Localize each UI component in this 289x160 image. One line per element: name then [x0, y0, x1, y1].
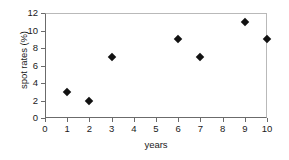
- y-tick: [41, 83, 45, 84]
- x-tick-label: 6: [168, 124, 188, 134]
- x-tick-label: 10: [257, 124, 277, 134]
- x-tick-label: 3: [102, 124, 122, 134]
- spot-rates-scatter-chart: spot rates (%) 012345678910 024681012 ye…: [0, 0, 289, 160]
- x-tick: [134, 118, 135, 122]
- x-tick-label: 7: [190, 124, 210, 134]
- y-tick: [41, 13, 45, 14]
- plot-area: [45, 13, 267, 118]
- y-tick-label: 8: [18, 43, 38, 53]
- x-tick-label: 9: [235, 124, 255, 134]
- x-tick: [178, 118, 179, 122]
- x-tick: [112, 118, 113, 122]
- x-tick-label: 1: [57, 124, 77, 134]
- y-tick-label: 10: [18, 26, 38, 36]
- x-tick: [223, 118, 224, 122]
- x-tick: [245, 118, 246, 122]
- x-axis-title: years: [45, 140, 267, 150]
- x-tick: [67, 118, 68, 122]
- x-tick-label: 4: [124, 124, 144, 134]
- x-tick: [89, 118, 90, 122]
- x-tick: [200, 118, 201, 122]
- y-tick-label: 4: [18, 78, 38, 88]
- y-tick: [41, 118, 45, 119]
- x-tick: [45, 118, 46, 122]
- y-tick-label: 6: [18, 61, 38, 71]
- y-tick: [41, 31, 45, 32]
- x-tick: [267, 118, 268, 122]
- x-tick: [156, 118, 157, 122]
- y-tick-label: 0: [18, 113, 38, 123]
- x-tick-label: 5: [146, 124, 166, 134]
- y-tick: [41, 101, 45, 102]
- y-tick-label: 2: [18, 96, 38, 106]
- x-tick-label: 2: [79, 124, 99, 134]
- x-tick-label: 8: [213, 124, 233, 134]
- y-tick-label: 12: [18, 8, 38, 18]
- y-tick: [41, 66, 45, 67]
- x-tick-label: 0: [35, 124, 55, 134]
- y-tick: [41, 48, 45, 49]
